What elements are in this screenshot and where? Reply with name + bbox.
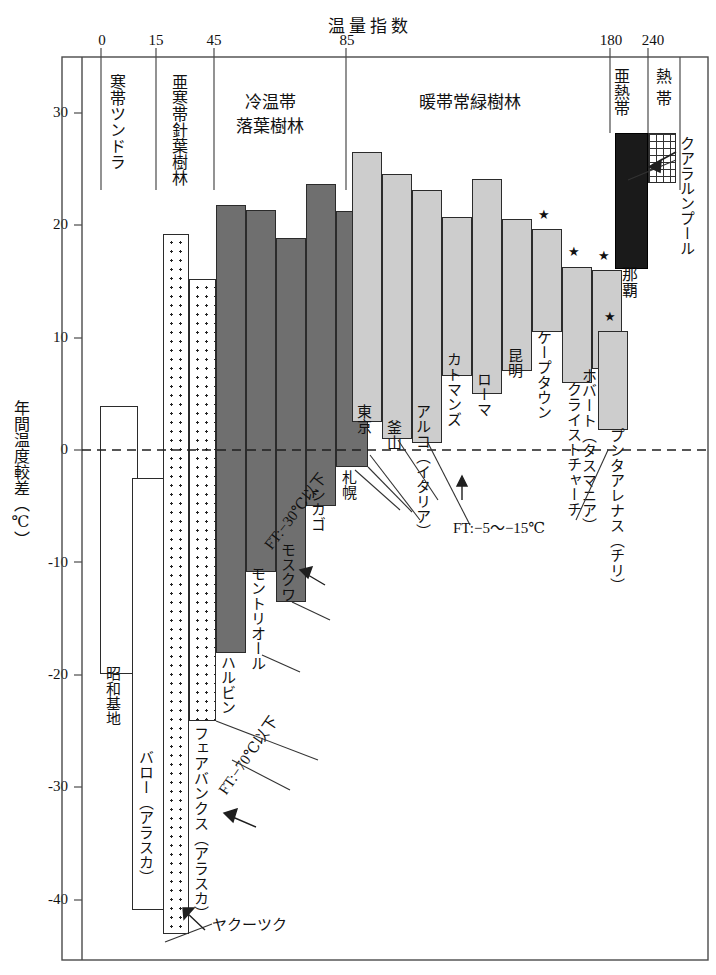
x-tick-45: 45 (197, 32, 231, 49)
bar-label-capetown: ケープタウン (535, 330, 550, 435)
bar-label-naha: 那覇 (620, 266, 636, 318)
bar-busan (382, 174, 412, 439)
zone-label-warm-temperate: 暖帯常緑樹林 (395, 88, 545, 113)
bar-label-christchurch: クライストチャーチ (565, 382, 580, 532)
climate-chart-figure: 温量指数 0 15 45 85 180 240 30 20 10 0 -10 -… (0, 0, 716, 975)
southern-hemisphere-star-capetown: ★ (538, 208, 550, 221)
bar-label-barrow: バロー（アラスカ） (137, 750, 152, 915)
bar-christchurch (562, 267, 592, 383)
bar-label-fairbanks: フェアバンクス（アラスカ） (192, 726, 207, 916)
bar-label-busan: 釜山 (385, 420, 400, 475)
zone-label-cool-temperate-l1: 冷温帯 (215, 88, 325, 113)
bar-label-showa-base: 昭和基地 (104, 666, 119, 756)
bar-rome (472, 179, 502, 394)
southern-hemisphere-star-christchurch: ★ (568, 245, 580, 258)
southern-hemisphere-star-hobart: ★ (598, 249, 610, 262)
bar-label-tokyo: 東京 (355, 404, 370, 459)
y-tick-minus40: -40 (18, 891, 68, 908)
y-tick-minus30: -30 (18, 778, 68, 795)
bar-label-sapporo: 札幌 (340, 470, 355, 525)
bar-label-harbin: ハルビン (219, 655, 234, 725)
bar-label-rome: ローマ (475, 372, 490, 437)
annotation-ft-5-15: FT:−5〜−15℃ (453, 516, 545, 537)
bar-label-kunming: 昆明 (506, 348, 521, 393)
bar-fairbanks (189, 279, 216, 721)
bar-harbin (216, 205, 246, 653)
southern-hemisphere-star-punta-arenas: ★ (604, 310, 616, 323)
bar-label-montreal: モントリオール (249, 566, 264, 681)
y-tick-20: 20 (24, 216, 68, 233)
x-tick-15: 15 (139, 32, 173, 49)
y-tick-30: 30 (24, 104, 68, 121)
bar-label-punta-arenas: プンタアレナス（チリ） (608, 428, 623, 613)
x-tick-85: 85 (330, 32, 364, 49)
y-axis-label: 年間温度較差（℃） (12, 400, 28, 600)
zone-label-cool-temperate-l2: 落葉樹林 (207, 112, 332, 137)
bar-label-arco-italy: アルコ（イタリア） (414, 404, 429, 534)
chart-title: 温量指数 (300, 12, 440, 37)
callout-label-yakutsk: ヤクーツク (212, 913, 287, 934)
bar-yakutsk (163, 234, 189, 934)
x-tick-240: 240 (634, 32, 672, 49)
bar-punta-arenas (598, 331, 628, 430)
bar-naha (615, 133, 648, 269)
x-tick-0: 0 (85, 32, 119, 49)
bar-label-kathmandu: カトマンズ (445, 352, 460, 447)
callout-label-kuala-lumpur: クアラルンプール (678, 136, 693, 286)
y-tick-0: 0 (24, 441, 68, 458)
bar-tokyo (352, 152, 382, 422)
y-tick-10: 10 (24, 329, 68, 346)
bar-capetown (532, 229, 562, 332)
y-tick-minus20: -20 (18, 666, 68, 683)
bar-montreal (246, 210, 276, 572)
zone-label-tundra: 寒帯ツンドラ (108, 74, 124, 224)
x-tick-180: 180 (592, 32, 630, 49)
bar-label-moscow: モスクワ (279, 542, 294, 642)
bar-chicago (306, 184, 336, 506)
bar-kuala-lumpur (648, 133, 676, 183)
bar-label-hobart: ホバート（タスマニア） (580, 368, 595, 523)
